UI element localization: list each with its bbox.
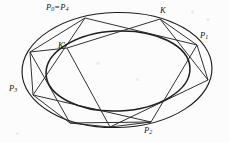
inner-ellipse xyxy=(44,28,191,114)
inner-ellipse-group xyxy=(44,28,191,114)
label-k-text: K xyxy=(160,5,166,15)
label-p3: P3 xyxy=(9,84,17,93)
label-p1-sub: 1 xyxy=(205,34,208,40)
chord-p0-p1 xyxy=(85,18,197,45)
label-p0-eq-p4: P0=P4 xyxy=(46,3,69,12)
scan-speck xyxy=(96,62,100,65)
label-p2-sub: 2 xyxy=(149,129,152,135)
chord-k-p1 xyxy=(160,19,197,45)
label-p3-sub: 3 xyxy=(14,87,17,93)
label-k: K xyxy=(160,6,166,15)
scan-speck xyxy=(16,132,19,135)
label-p4-sub: 4 xyxy=(66,6,69,12)
chord-k3-kprime xyxy=(67,48,110,127)
label-k-prime: K' xyxy=(58,41,65,50)
poncelet-diagram xyxy=(0,0,229,143)
chord-p1-k2 xyxy=(197,45,208,80)
scan-speck xyxy=(206,18,210,21)
chord-p3-v1 xyxy=(30,52,33,95)
scan-speck xyxy=(191,10,194,14)
label-kprime-mark: ' xyxy=(64,41,66,50)
chord-p3-p0 xyxy=(33,18,85,95)
polygon-P-chords xyxy=(33,18,197,122)
scan-speck xyxy=(136,78,139,81)
chord-v2-k3 xyxy=(70,123,110,127)
chord-v2-p2 xyxy=(70,122,151,123)
geometry-figure: P0=P4 K K' P1 P3 P2 xyxy=(0,0,229,143)
label-p1: P1 xyxy=(200,31,208,40)
label-p2: P2 xyxy=(144,126,152,135)
